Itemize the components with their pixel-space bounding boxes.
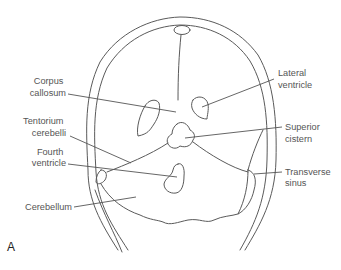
label-lateral-ventricle: Lateral ventricle <box>278 68 312 90</box>
anatomy-diagram: Corpus callosum Tentorium cerebelli Four… <box>0 0 341 270</box>
cerebellum-leader <box>74 197 136 207</box>
label-cerebellum: Cerebellum <box>25 202 72 212</box>
superior-sagittal-sinus <box>174 26 190 35</box>
right-cerebellar-edge <box>248 130 263 170</box>
tentorium-left <box>107 143 168 172</box>
falx-cerebri <box>178 35 181 100</box>
transverse-sinus-leader <box>254 172 282 174</box>
superior-cistern-shape <box>167 122 194 148</box>
left-neck-line <box>95 190 122 252</box>
label-superior-cistern: Superior cistern <box>285 122 322 144</box>
left-lateral-ventricle <box>137 100 159 136</box>
label-fourth-ventricle: Fourth ventricle <box>32 147 66 168</box>
left-transverse-sinus <box>96 170 106 184</box>
skull-outer-outline <box>87 17 277 250</box>
tentorium-right <box>193 142 248 172</box>
skull-inner-outline <box>95 25 268 250</box>
label-corpus-callosum: Corpus callosum <box>30 76 67 98</box>
cerebellum-outline <box>101 184 238 224</box>
fourth-ventricle-shape <box>164 164 184 194</box>
label-tentorium-cerebelli: Tentorium cerebelli <box>23 116 66 138</box>
right-transverse-sinus <box>238 170 255 214</box>
tentorium-cerebelli-leader <box>70 136 131 163</box>
label-transverse-sinus: Transverse sinus <box>285 167 333 188</box>
corpus-callosum-leader <box>68 94 176 112</box>
panel-letter: A <box>7 240 15 254</box>
lateral-ventricle-leader <box>202 79 274 107</box>
right-lateral-ventricle <box>192 97 209 119</box>
